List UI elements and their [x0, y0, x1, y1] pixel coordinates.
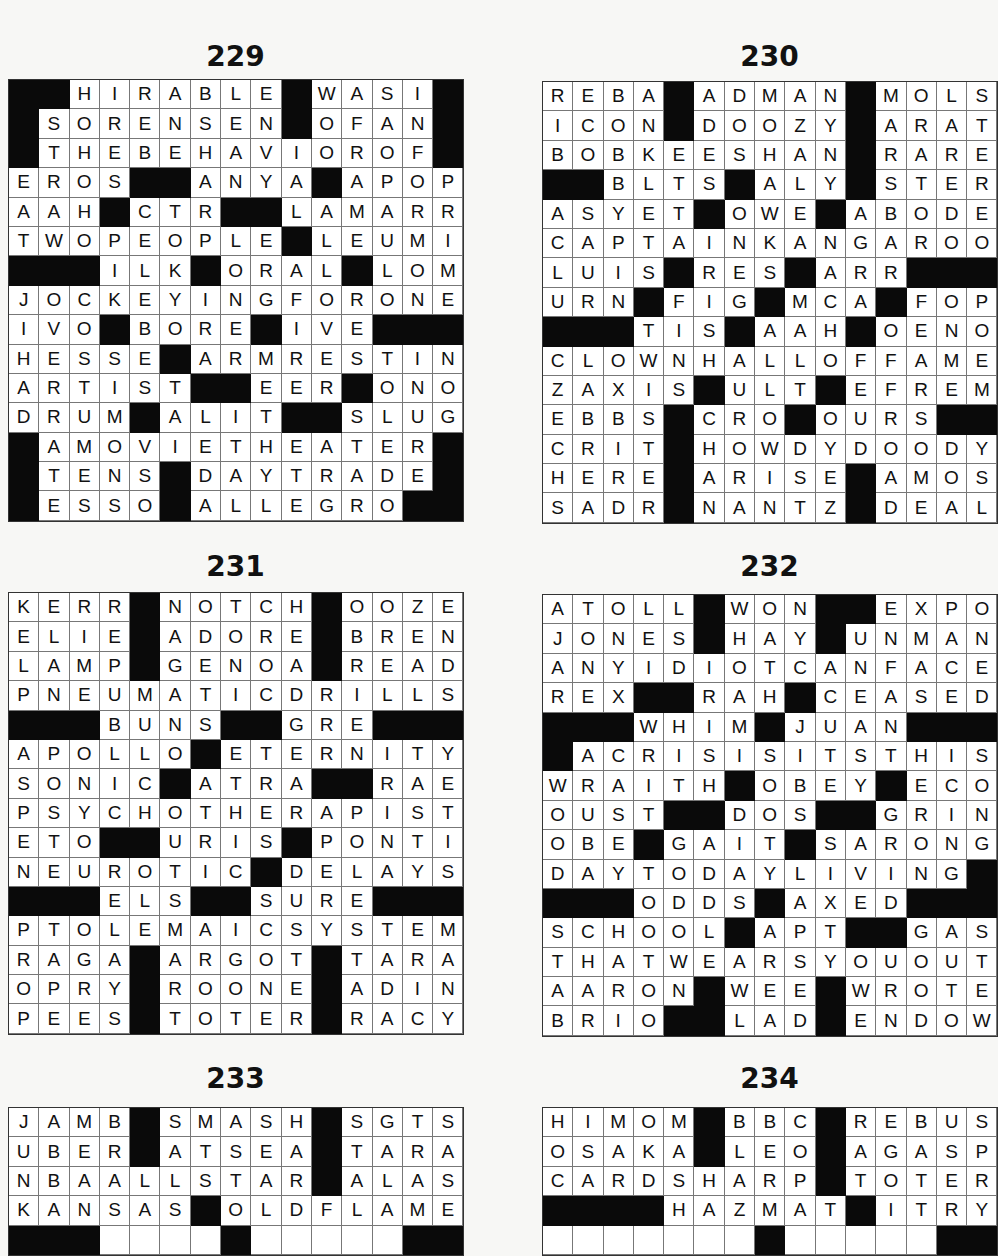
- letter-cell: S: [160, 887, 190, 916]
- letter-cell: D: [785, 435, 815, 464]
- letter-cell: O: [634, 918, 664, 947]
- letter-cell: I: [221, 403, 251, 432]
- letter-cell: [876, 1226, 906, 1255]
- letter-cell: X: [604, 376, 634, 405]
- letter-cell: V: [312, 315, 342, 344]
- black-square: [130, 828, 160, 857]
- black-square: [604, 713, 634, 742]
- letter-cell: L: [937, 82, 967, 111]
- black-square: [816, 624, 846, 653]
- letter-cell: T: [342, 946, 372, 975]
- black-square: [130, 946, 160, 975]
- letter-cell: Z: [816, 493, 846, 522]
- letter-cell: E: [604, 830, 634, 859]
- letter-cell: I: [433, 828, 463, 857]
- letter-cell: T: [160, 1004, 190, 1033]
- puzzle-number: 230: [542, 40, 997, 73]
- letter-cell: E: [573, 464, 603, 493]
- letter-cell: [907, 1226, 937, 1255]
- letter-cell: J: [9, 286, 39, 315]
- letter-cell: L: [664, 595, 694, 624]
- letter-cell: R: [251, 769, 281, 798]
- letter-cell: R: [755, 948, 785, 977]
- letter-cell: E: [937, 683, 967, 712]
- letter-cell: Y: [816, 435, 846, 464]
- letter-cell: D: [785, 1006, 815, 1035]
- letter-cell: S: [191, 1167, 221, 1196]
- letter-cell: S: [342, 403, 372, 432]
- letter-cell: [160, 1226, 190, 1255]
- letter-cell: E: [967, 200, 997, 229]
- letter-cell: D: [725, 82, 755, 111]
- letter-cell: R: [403, 433, 433, 462]
- letter-cell: I: [573, 1108, 603, 1137]
- letter-cell: S: [130, 374, 160, 403]
- black-square: [130, 1004, 160, 1033]
- letter-cell: S: [221, 1137, 251, 1166]
- letter-cell: N: [816, 141, 846, 170]
- letter-cell: I: [403, 975, 433, 1004]
- black-square: [312, 1167, 342, 1196]
- letter-cell: R: [342, 286, 372, 315]
- letter-cell: R: [403, 198, 433, 227]
- letter-cell: A: [725, 1167, 755, 1196]
- black-square: [664, 683, 694, 712]
- black-square: [39, 80, 69, 109]
- black-square: [664, 111, 694, 140]
- letter-cell: A: [221, 462, 251, 491]
- letter-cell: E: [694, 141, 724, 170]
- letter-cell: A: [785, 141, 815, 170]
- letter-cell: A: [876, 464, 906, 493]
- black-square: [664, 435, 694, 464]
- letter-cell: I: [100, 374, 130, 403]
- letter-cell: A: [694, 82, 724, 111]
- letter-cell: C: [785, 654, 815, 683]
- letter-cell: T: [403, 740, 433, 769]
- black-square: [9, 139, 39, 168]
- letter-cell: T: [160, 374, 190, 403]
- letter-cell: N: [604, 624, 634, 653]
- letter-cell: I: [403, 345, 433, 374]
- letter-cell: T: [282, 946, 312, 975]
- black-square: [160, 168, 190, 197]
- letter-cell: E: [755, 1137, 785, 1166]
- letter-cell: U: [130, 711, 160, 740]
- letter-cell: A: [755, 170, 785, 199]
- letter-cell: R: [100, 593, 130, 622]
- black-square: [9, 887, 39, 916]
- letter-cell: T: [664, 771, 694, 800]
- letter-cell: A: [694, 1196, 724, 1225]
- letter-cell: R: [312, 681, 342, 710]
- letter-cell: W: [39, 227, 69, 256]
- letter-cell: I: [100, 256, 130, 285]
- black-square: [937, 713, 967, 742]
- black-square: [694, 1137, 724, 1166]
- black-square: [694, 1108, 724, 1137]
- letter-cell: G: [907, 918, 937, 947]
- letter-cell: H: [694, 771, 724, 800]
- black-square: [433, 1226, 463, 1255]
- letter-cell: E: [846, 1006, 876, 1035]
- letter-cell: [282, 1226, 312, 1255]
- letter-cell: E: [130, 109, 160, 138]
- letter-cell: A: [876, 229, 906, 258]
- letter-cell: R: [312, 740, 342, 769]
- letter-cell: S: [282, 916, 312, 945]
- crossword-grid: REBAADMANMOLSICONDOOZYARATBOBKEESHANRARE…: [542, 81, 998, 524]
- letter-cell: O: [907, 830, 937, 859]
- letter-cell: A: [846, 200, 876, 229]
- letter-cell: A: [373, 109, 403, 138]
- letter-cell: [573, 1226, 603, 1255]
- letter-cell: O: [39, 286, 69, 315]
- letter-cell: E: [907, 493, 937, 522]
- letter-cell: L: [342, 1196, 372, 1225]
- letter-cell: F: [403, 139, 433, 168]
- letter-cell: O: [342, 828, 372, 857]
- letter-cell: I: [373, 799, 403, 828]
- letter-cell: A: [130, 1196, 160, 1225]
- letter-cell: E: [403, 622, 433, 651]
- letter-cell: R: [846, 1108, 876, 1137]
- letter-cell: E: [251, 80, 281, 109]
- letter-cell: A: [312, 198, 342, 227]
- black-square: [251, 198, 281, 227]
